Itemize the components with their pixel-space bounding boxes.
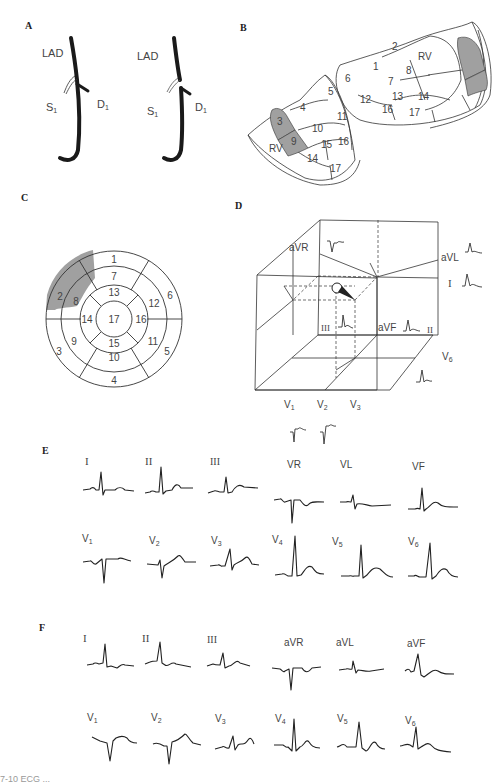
lead-iii: III [321, 323, 330, 333]
svg-text:6: 6 [345, 73, 351, 84]
v3-sub: 3 [357, 404, 361, 411]
svg-text:16: 16 [135, 314, 147, 325]
v6-sub: 6 [449, 356, 453, 363]
svg-text:8: 8 [406, 65, 412, 76]
svg-text:3: 3 [56, 346, 62, 357]
svg-text:1: 1 [111, 254, 117, 265]
lead-v6: V6 [442, 351, 453, 363]
svg-text:16: 16 [338, 136, 350, 147]
svg-text:6: 6 [167, 290, 173, 301]
svg-text:13: 13 [108, 287, 120, 298]
svg-text:7: 7 [111, 271, 117, 282]
svg-text:16: 16 [382, 104, 394, 115]
svg-text:10: 10 [312, 123, 324, 134]
hexaxial-cube-diagram [220, 190, 502, 450]
v1-text: V [284, 399, 291, 410]
lad-occluded-drawing [0, 0, 220, 170]
svg-text:17: 17 [108, 314, 120, 325]
svg-text:10: 10 [108, 352, 120, 363]
panel-c-label: C [21, 192, 28, 203]
svg-text:15: 15 [321, 139, 333, 150]
svg-text:5: 5 [164, 346, 170, 357]
svg-text:17: 17 [330, 163, 342, 174]
lead-ii: II [427, 325, 433, 335]
v1-sub: 1 [291, 404, 295, 411]
svg-text:11: 11 [337, 111, 348, 122]
svg-text:15: 15 [108, 338, 120, 349]
svg-text:17: 17 [409, 107, 421, 118]
svg-text:5: 5 [328, 86, 334, 97]
svg-text:14: 14 [418, 91, 430, 102]
svg-text:9: 9 [291, 136, 297, 147]
lead-v2: V2 [317, 399, 328, 411]
svg-text:8: 8 [73, 296, 79, 307]
lead-avf: aVF [378, 322, 396, 333]
svg-text:14: 14 [81, 314, 93, 325]
svg-text:2: 2 [57, 291, 63, 302]
bullseye-3d-slices: 1 2 6 7 8 12 13 14 16 17 RV 3 4 5 9 10 1… [220, 0, 502, 190]
svg-text:RV: RV [269, 143, 283, 154]
lead-avr: aVR [289, 242, 308, 253]
ecg-tracings-f [0, 610, 502, 784]
lead-avl: aVL [441, 252, 459, 263]
lead-v3: V3 [350, 399, 361, 411]
svg-text:13: 13 [392, 91, 404, 102]
svg-text:4: 4 [300, 102, 306, 113]
svg-text:11: 11 [148, 336, 159, 347]
v3-text: V [350, 399, 357, 410]
svg-text:12: 12 [148, 298, 160, 309]
figure-caption: 7-10 ECG ... [0, 774, 50, 784]
v2-text: V [317, 399, 324, 410]
svg-text:3: 3 [277, 116, 283, 127]
svg-text:14: 14 [307, 153, 319, 164]
lead-i: I [448, 277, 452, 289]
v2-sub: 2 [324, 404, 328, 411]
bullseye-17-segment: 1 2 3 4 5 6 7 8 9 10 11 12 13 14 15 16 1… [45, 250, 185, 390]
v6-text: V [442, 351, 449, 362]
svg-text:9: 9 [71, 336, 77, 347]
svg-text:7: 7 [388, 76, 394, 87]
svg-text:1: 1 [373, 61, 379, 72]
lead-v1: V1 [284, 399, 295, 411]
svg-text:RV: RV [418, 51, 432, 62]
ecg-tracings-e [0, 450, 502, 610]
svg-text:4: 4 [111, 375, 117, 386]
svg-text:12: 12 [360, 94, 372, 105]
seg-b-2: 2 [392, 41, 398, 52]
